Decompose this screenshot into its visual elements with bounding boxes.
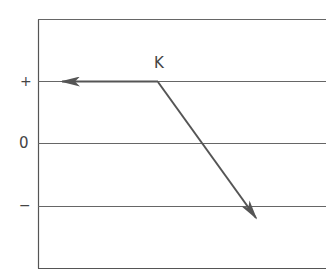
axis-label-minus: − (19, 198, 31, 212)
diagram-canvas (0, 0, 334, 277)
diagonal-arrow (158, 82, 256, 218)
axis-label-zero: 0 (19, 136, 29, 151)
axis-label-plus: + (20, 74, 32, 88)
vector-label-k: K (154, 56, 164, 71)
